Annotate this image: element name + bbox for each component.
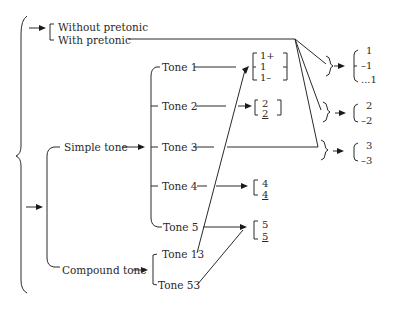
arrow-head-icon [338, 63, 345, 69]
tone2-result-item: –2 [361, 115, 372, 126]
root-brace [16, 16, 27, 293]
arrow-head-icon [241, 183, 248, 189]
tone4-set-item-underlined: 4 [262, 189, 268, 200]
arrow-head-icon [337, 148, 344, 154]
tone4-set-bracket [254, 180, 258, 195]
tone3-result-brace [321, 140, 328, 160]
tone5-set-item-underlined: 5 [262, 231, 268, 242]
tone-13-label: Tone 13 [162, 248, 204, 260]
tone1-result-item: ...1 [361, 74, 377, 85]
tone3-result-item: 3 [366, 140, 372, 151]
arrow-head-icon [36, 204, 43, 210]
tone-1-label: Tone 1 [162, 61, 198, 73]
tone2-set-item-underlined: 2 [262, 108, 268, 119]
tone1-result-item: –1 [361, 60, 372, 71]
tone5-set-item: 5 [262, 219, 268, 230]
arrow-head-icon [339, 110, 346, 116]
with-pretonic-label: With pretonic [58, 34, 131, 46]
tone1-result-item: 1 [366, 45, 372, 56]
tone-4-label: Tone 4 [162, 180, 198, 192]
tone2-result-item: 2 [366, 100, 372, 111]
arrow-head-icon [39, 25, 46, 31]
tone5-set-bracket [254, 221, 258, 239]
pretonic-bracket [50, 24, 54, 40]
tone1-set-item: 1+ [260, 50, 275, 61]
simple-compound-bracket [47, 147, 60, 267]
tone-53-label: Tone 53 [158, 279, 200, 291]
tone1-set-item: 1– [260, 72, 271, 83]
diagram-lines [0, 0, 400, 311]
tone-3-label: Tone 3 [162, 141, 198, 153]
tone2-result-bracket [354, 104, 358, 122]
tone-5-label: Tone 5 [163, 221, 199, 233]
compound-bracket [153, 254, 157, 285]
tone1-result-brace [326, 56, 333, 76]
tone4-set-item: 4 [262, 178, 268, 189]
without-pretonic-label: Without pretonic [58, 21, 148, 33]
tone2-set-bracket-right [277, 100, 281, 115]
arrow-head-icon [245, 103, 252, 109]
arrow-head-icon [138, 144, 145, 150]
arrow-head-icon [242, 66, 249, 74]
tone1-set-item: 1 [260, 61, 266, 72]
tone-2-label: Tone 2 [162, 100, 198, 112]
tone3-result-bracket [354, 143, 358, 161]
tone2-result-brace [323, 102, 330, 122]
simple-tone-label: Simple tone [64, 141, 128, 153]
tone2-set-bracket-left [255, 100, 258, 115]
tone3-result-item: –3 [361, 155, 372, 166]
arrow-head-icon [240, 224, 247, 230]
compound-tone-label: Compound tone [62, 264, 146, 276]
tone-diagram: Without pretonic With pretonic Simple to… [0, 0, 400, 311]
